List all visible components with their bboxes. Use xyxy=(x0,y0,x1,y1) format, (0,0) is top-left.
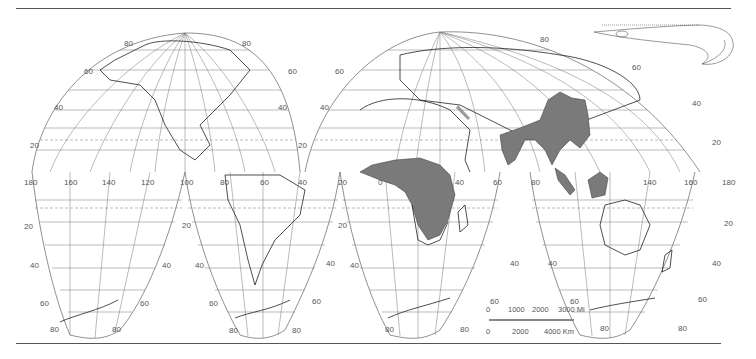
lat-label: 80 xyxy=(540,36,549,44)
lat-label: 60 xyxy=(84,68,93,76)
scale-mi-0: 0 xyxy=(486,305,490,314)
lat-label: 20 xyxy=(182,222,191,230)
lon-label: 80 xyxy=(531,179,540,187)
scale-line xyxy=(489,319,574,321)
scale-mi-1000: 1000 xyxy=(508,305,525,314)
fish-illustration-icon xyxy=(594,25,733,64)
scale-km-0: 0 xyxy=(486,327,490,336)
lon-label: 180 xyxy=(722,179,735,187)
north-america-lobe xyxy=(0,33,340,172)
lat-label: 60 xyxy=(632,64,641,72)
lon-label: 100 xyxy=(180,179,193,187)
lat-label: 40 xyxy=(548,260,557,268)
lon-label: 0 xyxy=(378,179,382,187)
lon-label: 120 xyxy=(141,179,154,187)
lon-label: 40 xyxy=(298,179,307,187)
lat-label: 40 xyxy=(278,104,287,112)
scale-km-4000: 4000 Km xyxy=(544,327,574,336)
lat-label: 40 xyxy=(30,262,39,270)
lat-label: 60 xyxy=(288,68,297,76)
lon-label: 40 xyxy=(455,179,464,187)
lon-label: 60 xyxy=(493,179,502,187)
scale-mi-2000: 2000 xyxy=(532,305,549,314)
lat-label: 80 xyxy=(460,326,469,334)
scale-km-2000: 2000 xyxy=(512,327,529,336)
lon-label: 160 xyxy=(684,179,697,187)
lat-label: 40 xyxy=(712,260,721,268)
range-africa xyxy=(360,158,455,240)
lat-label: 20 xyxy=(338,222,347,230)
range-borneo xyxy=(588,172,608,198)
lon-label: 140 xyxy=(102,179,115,187)
lat-label: 80 xyxy=(385,326,394,334)
lon-label: 180 xyxy=(24,179,37,187)
lat-label: 80 xyxy=(242,40,251,48)
lat-label: 80 xyxy=(678,325,687,333)
lon-label: 80 xyxy=(220,179,229,187)
range-sumatra xyxy=(555,168,575,195)
lat-label: 40 xyxy=(195,262,204,270)
lon-label: 60 xyxy=(260,179,269,187)
range-asia xyxy=(500,92,590,165)
lat-label: 80 xyxy=(50,326,59,334)
lat-label: 80 xyxy=(292,327,301,335)
lat-label: 40 xyxy=(510,260,519,268)
lat-label: 20 xyxy=(712,139,721,147)
lat-label: 20 xyxy=(30,142,39,150)
lat-label: 40 xyxy=(692,100,701,108)
lat-label: 60 xyxy=(40,300,49,308)
lat-label: 20 xyxy=(298,142,307,150)
lat-label: 60 xyxy=(335,68,344,76)
south-lobe-2 xyxy=(185,172,340,338)
lat-label: 40 xyxy=(326,260,335,268)
lon-label: 20 xyxy=(338,179,347,187)
lat-label: 40 xyxy=(350,262,359,270)
lat-label: 20 xyxy=(24,223,33,231)
south-lobe-1 xyxy=(32,172,185,338)
lon-label: 160 xyxy=(64,179,77,187)
scale-bar: 0 1000 2000 3000 Mi 0 2000 4000 Km xyxy=(486,305,626,341)
south-lobe-3 xyxy=(340,158,500,338)
lat-label: 80 xyxy=(112,326,121,334)
lat-label: 60 xyxy=(140,300,149,308)
lat-label: 40 xyxy=(320,104,329,112)
lat-label: 60 xyxy=(209,300,218,308)
lat-label: 40 xyxy=(162,262,171,270)
lat-label: 80 xyxy=(124,40,133,48)
lat-label: 60 xyxy=(698,296,707,304)
lat-label: 80 xyxy=(229,327,238,335)
lat-label: 40 xyxy=(54,104,63,112)
scale-mi-3000: 3000 Mi xyxy=(558,305,585,314)
lat-label: 60 xyxy=(312,298,321,306)
lat-label: 20 xyxy=(724,220,733,228)
lon-label: 140 xyxy=(643,179,656,187)
